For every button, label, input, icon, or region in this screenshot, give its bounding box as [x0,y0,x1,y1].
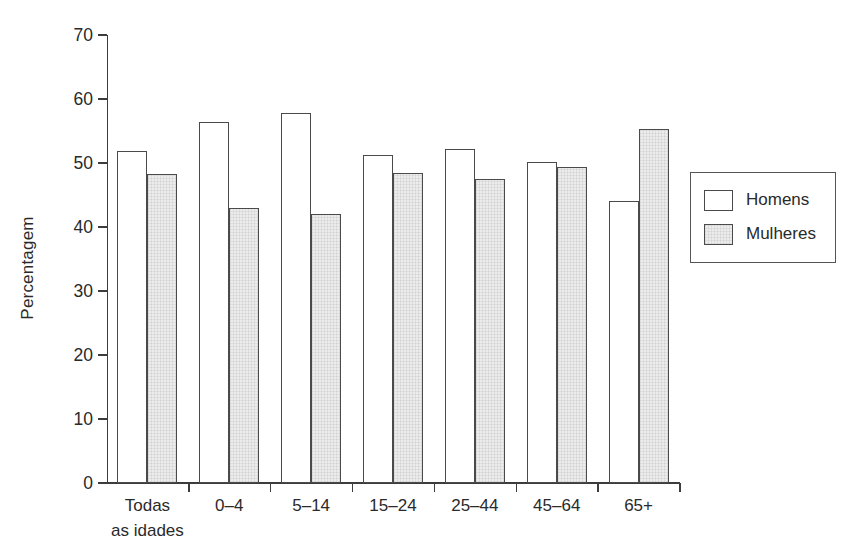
bar-homens[interactable] [117,151,147,483]
legend-item-homens[interactable]: Homens [704,188,809,212]
bar-mulheres[interactable] [229,208,259,483]
y-axis-tick-label: 70 [74,25,93,46]
y-axis-tick-label: 40 [74,217,93,238]
y-axis-tick-label: 60 [74,89,93,110]
x-axis-tick [516,483,517,492]
bar-homens[interactable] [363,155,393,483]
y-axis-tick [98,226,107,227]
x-axis-label: 65+ [569,493,709,518]
y-axis-tick [98,482,107,483]
legend-item-mulheres[interactable]: Mulheres [704,222,816,246]
plot-area: 010203040506070 [107,35,680,483]
y-axis-tick-label: 20 [74,345,93,366]
y-axis-tick [98,418,107,419]
y-axis-tick [98,290,107,291]
y-axis-tick [98,354,107,355]
bar-homens[interactable] [199,122,229,483]
x-axis-tick [597,483,598,492]
x-axis-label-line: 65+ [569,493,709,518]
y-axis-tick-label: 0 [83,473,93,494]
bar-homens[interactable] [609,201,639,483]
bar-homens[interactable] [527,162,557,483]
legend-swatch-mulheres [704,224,733,245]
bar-homens[interactable] [281,113,311,483]
y-axis-title: Percentagem [18,178,38,358]
x-axis-tick [352,483,353,492]
legend-swatch-homens [704,190,733,211]
x-axis-tick [270,483,271,492]
legend: Homens Mulheres [690,172,836,263]
x-axis-label-line: as idades [77,518,217,543]
y-axis-tick [98,162,107,163]
y-axis-tick-label: 50 [74,153,93,174]
x-axis-tick [434,483,435,492]
bar-mulheres[interactable] [557,167,587,483]
y-axis-tick-label: 10 [74,409,93,430]
legend-label-homens: Homens [746,190,809,210]
bar-mulheres[interactable] [639,129,669,483]
y-axis-tick [98,98,107,99]
x-axis-tick [679,483,680,492]
bar-mulheres[interactable] [311,214,341,483]
y-axis-tick-label: 30 [74,281,93,302]
y-axis-tick [98,34,107,35]
bar-homens[interactable] [445,149,475,483]
bar-chart-figure: Percentagem 010203040506070 Todasas idad… [0,0,866,558]
y-axis-line [107,35,108,483]
x-axis-tick [188,483,189,492]
bar-mulheres[interactable] [393,173,423,483]
legend-label-mulheres: Mulheres [746,224,816,244]
bar-mulheres[interactable] [475,179,505,483]
bar-mulheres[interactable] [147,174,177,483]
